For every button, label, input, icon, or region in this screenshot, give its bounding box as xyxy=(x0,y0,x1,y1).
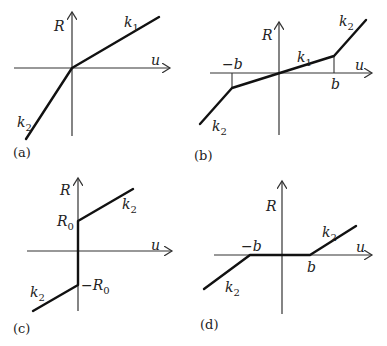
k2-label: k2 xyxy=(17,115,32,133)
k1-label: k1 xyxy=(124,15,139,33)
k2-lower-label: k2 xyxy=(30,285,45,303)
u-axis-label: u xyxy=(355,58,364,72)
neg-b-label: −b xyxy=(222,57,243,71)
characteristic-curve xyxy=(200,20,366,124)
r-axis-label: R xyxy=(60,183,71,197)
panel-a xyxy=(14,12,170,139)
k2-lower-label: k2 xyxy=(225,280,240,298)
panel-caption: (a) xyxy=(13,146,31,159)
panel-caption: (c) xyxy=(13,322,30,335)
panel-caption: (b) xyxy=(194,149,212,162)
figure: R u k1 k2 (a) R u −b b k1 k2 k2 (b) R u … xyxy=(0,0,387,346)
r0-label: R0 xyxy=(57,214,74,232)
panel-caption: (d) xyxy=(200,318,218,331)
k2-upper-label: k2 xyxy=(322,225,337,243)
neg-b-label: −b xyxy=(241,239,262,253)
r-axis-label: R xyxy=(262,28,273,42)
k2-lower-label: k2 xyxy=(212,119,227,137)
u-axis-label: u xyxy=(151,53,160,67)
u-axis-label: u xyxy=(151,238,160,252)
b-label: b xyxy=(331,77,340,91)
characteristic-curve xyxy=(26,17,159,139)
b-label: b xyxy=(307,260,316,274)
k1-label: k1 xyxy=(297,50,312,68)
neg-r0-label: −R0 xyxy=(81,278,110,296)
r-axis-label: R xyxy=(266,199,277,213)
r-axis-label: R xyxy=(54,19,65,33)
figure-graphics xyxy=(0,0,387,346)
k2-upper-label: k2 xyxy=(339,14,354,32)
k2-upper-label: k2 xyxy=(122,197,137,215)
u-axis-label: u xyxy=(356,240,365,254)
panel-b xyxy=(200,20,372,135)
